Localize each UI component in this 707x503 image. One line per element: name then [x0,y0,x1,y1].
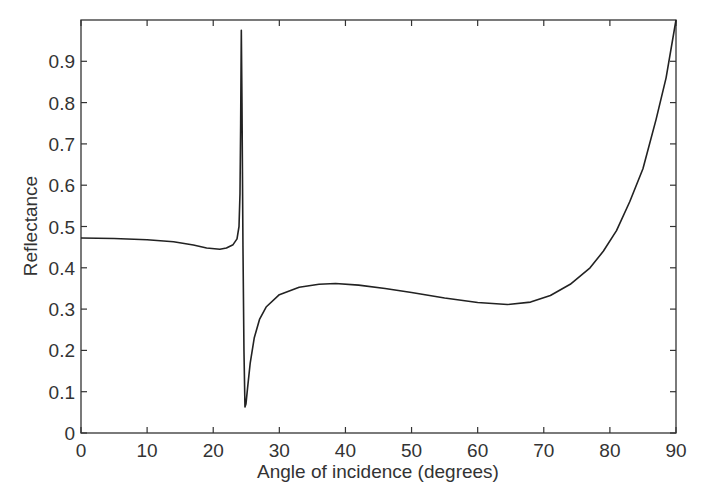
x-tick-label: 90 [665,440,686,461]
y-tick-label: 0.2 [49,340,75,361]
plot-frame [81,20,676,433]
x-tick-label: 40 [335,440,356,461]
y-tick-label: 0.9 [49,51,75,72]
reflectance-chart: 0102030405060708090 00.10.20.30.40.50.60… [0,0,707,503]
y-tick-label: 0.5 [49,217,75,238]
y-tick-label: 0.8 [49,93,75,114]
x-tick-label: 0 [76,440,87,461]
x-tick-label: 50 [401,440,422,461]
x-tick-label: 60 [467,440,488,461]
y-axis-label: Reflectance [20,176,41,276]
x-axis-label: Angle of incidence (degrees) [257,461,499,482]
y-tick-label: 0.1 [49,382,75,403]
y-tick-label: 0.6 [49,175,75,196]
x-tick-label: 10 [137,440,158,461]
y-tick-label: 0 [64,423,75,444]
y-tick-label: 0.3 [49,299,75,320]
x-tick-label: 70 [533,440,554,461]
x-tick-label: 30 [269,440,290,461]
x-tick-label: 80 [599,440,620,461]
y-axis-ticks: 00.10.20.30.40.50.60.70.80.9 [49,51,676,444]
x-tick-label: 20 [203,440,224,461]
reflectance-curve [81,20,676,407]
y-tick-label: 0.4 [49,258,76,279]
y-tick-label: 0.7 [49,134,75,155]
